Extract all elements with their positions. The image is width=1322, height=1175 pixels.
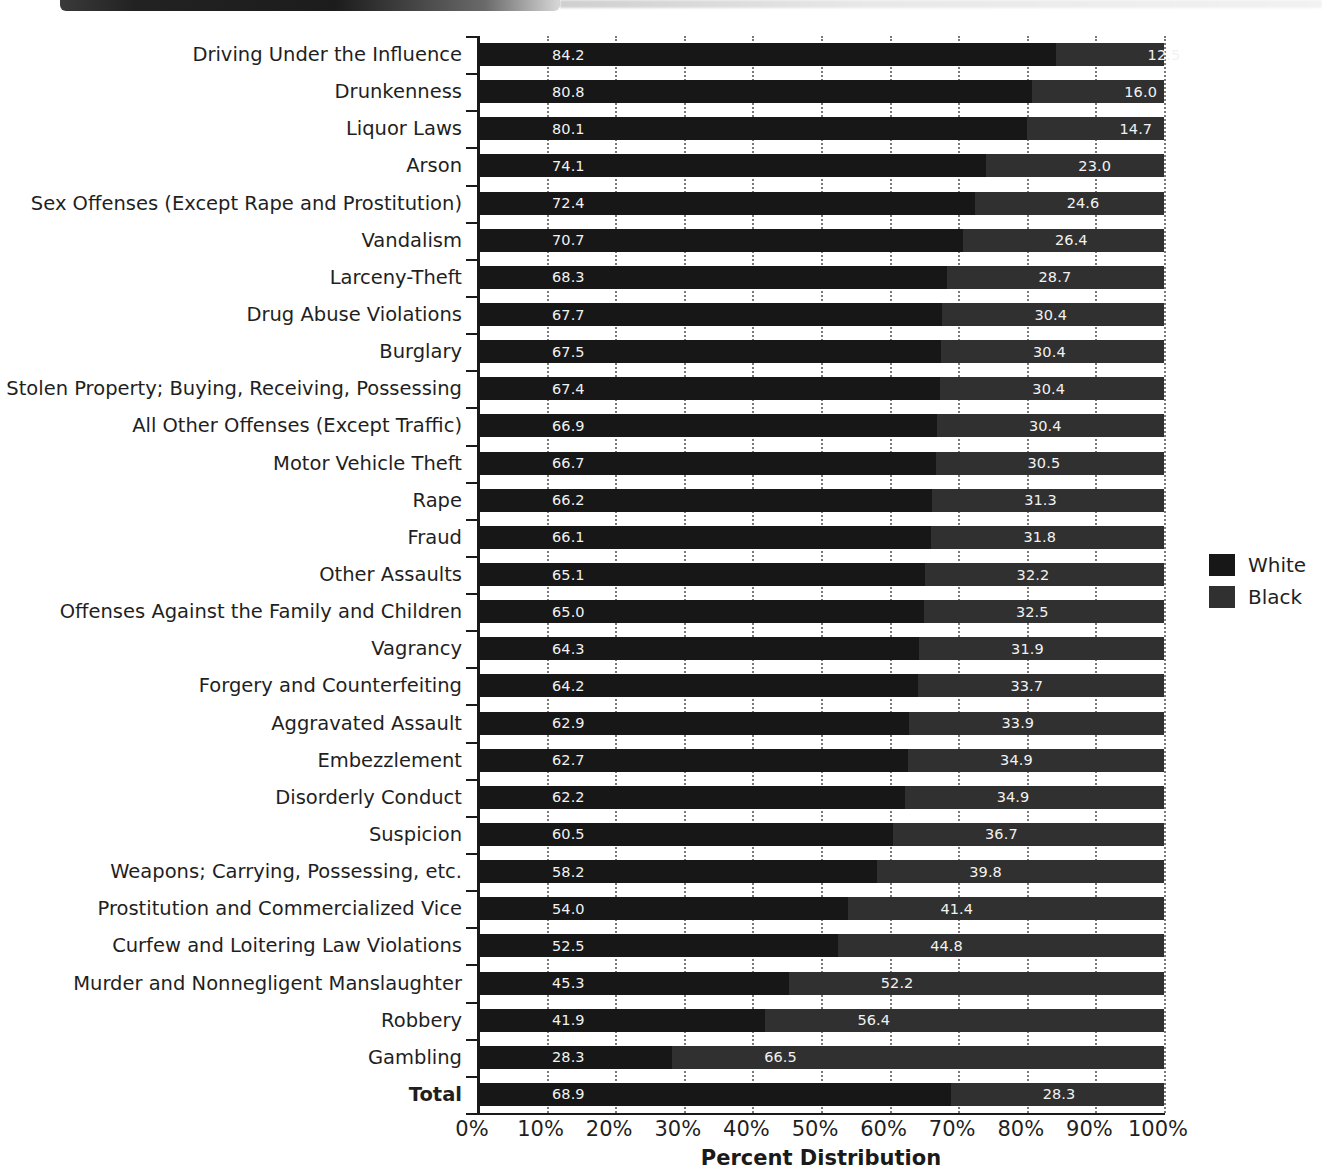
bar-segment-white [478, 674, 918, 697]
bar-value-white: 67.5 [552, 343, 585, 359]
bar-segment-black [765, 1009, 1164, 1032]
legend-item-black[interactable]: Black [1209, 585, 1319, 609]
category-axis-labels: Driving Under the InfluenceDrunkennessLi… [0, 36, 462, 1113]
legend-item-white[interactable]: White [1209, 553, 1319, 577]
bar-segment-white [478, 786, 905, 809]
bar-segment-white [478, 860, 877, 883]
bar-segment-black [838, 934, 1164, 957]
bar-value-black: 30.4 [1034, 306, 1067, 322]
bar-row: 41.956.4 [478, 1009, 1164, 1032]
category-label: Vandalism [0, 229, 462, 252]
bar-segment-white [478, 266, 947, 289]
category-label: Sex Offenses (Except Rape and Prostituti… [0, 192, 462, 215]
bar-value-black: 24.6 [1067, 195, 1100, 211]
bar-value-black: 16.0 [1124, 83, 1157, 99]
bar-row: 66.131.8 [478, 526, 1164, 549]
bar-segment-white [478, 340, 941, 363]
bar-row: 60.536.7 [478, 823, 1164, 846]
bar-row: 68.928.3 [478, 1083, 1164, 1106]
bar-row: 65.132.2 [478, 563, 1164, 586]
bar-value-black: 39.8 [969, 863, 1002, 879]
x-tick-label-60: 60% [860, 1117, 907, 1141]
category-label: Drug Abuse Violations [0, 303, 462, 326]
y-axis-tick [466, 407, 478, 409]
bar-value-white: 62.7 [552, 752, 585, 768]
category-label: Offenses Against the Family and Children [0, 600, 462, 623]
category-label: Total [0, 1083, 462, 1106]
x-tick-label-70: 70% [929, 1117, 976, 1141]
bar-segment-white [478, 712, 909, 735]
category-label: Embezzlement [0, 749, 462, 772]
bar-value-white: 66.1 [552, 529, 585, 545]
bar-row: 62.933.9 [478, 712, 1164, 735]
plot-area: 84.212.580.816.080.114.774.123.072.424.6… [478, 36, 1164, 1113]
y-axis-tick [466, 110, 478, 112]
bar-row: 74.123.0 [478, 154, 1164, 177]
bar-value-white: 67.4 [552, 380, 585, 396]
category-label: Prostitution and Commercialized Vice [0, 897, 462, 920]
bar-value-black: 52.2 [881, 975, 914, 991]
bar-value-black: 12.5 [1148, 46, 1181, 62]
category-label: Robbery [0, 1009, 462, 1032]
x-tick-label-10: 10% [517, 1117, 564, 1141]
y-axis-tick [466, 259, 478, 261]
bar-row: 58.239.8 [478, 860, 1164, 883]
category-label: Motor Vehicle Theft [0, 452, 462, 475]
category-label: Other Assaults [0, 563, 462, 586]
category-label: Fraud [0, 526, 462, 549]
bar-row: 62.234.9 [478, 786, 1164, 809]
bar-value-black: 36.7 [985, 826, 1018, 842]
bar-row: 66.730.5 [478, 452, 1164, 475]
bar-value-black: 14.7 [1119, 121, 1152, 137]
bar-value-white: 66.9 [552, 418, 585, 434]
bar-row: 62.734.9 [478, 749, 1164, 772]
bar-value-white: 41.9 [552, 1012, 585, 1028]
bar-value-white: 68.9 [552, 1086, 585, 1102]
bar-value-white: 84.2 [552, 46, 585, 62]
y-axis-tick [466, 667, 478, 669]
bar-segment-black [893, 823, 1164, 846]
bar-value-black: 32.2 [1017, 566, 1050, 582]
bar-value-white: 65.0 [552, 603, 585, 619]
bar-segment-white [478, 526, 931, 549]
bar-value-black: 28.3 [1043, 1086, 1076, 1102]
bar-value-black: 30.4 [1033, 343, 1066, 359]
bar-value-white: 72.4 [552, 195, 585, 211]
bar-value-white: 28.3 [552, 1049, 585, 1065]
y-axis-tick [466, 482, 478, 484]
bar-value-white: 66.7 [552, 455, 585, 471]
chart-legend: WhiteBlack [1209, 553, 1319, 617]
category-label: All Other Offenses (Except Traffic) [0, 414, 462, 437]
bar-segment-white [478, 303, 942, 326]
y-axis-tick [466, 742, 478, 744]
category-label: Suspicion [0, 823, 462, 846]
x-axis-spine [477, 1113, 1165, 1115]
gridline-100 [1164, 36, 1166, 1113]
y-axis-tick [466, 927, 478, 929]
x-tick-label-100: 100% [1128, 1117, 1188, 1141]
bar-value-white: 68.3 [552, 269, 585, 285]
y-axis-tick [466, 147, 478, 149]
bar-segment-white [478, 749, 908, 772]
x-tick-label-20: 20% [586, 1117, 633, 1141]
y-axis-tick [466, 630, 478, 632]
y-axis-tick [466, 964, 478, 966]
y-axis-tick [466, 1002, 478, 1004]
bar-segment-black [909, 712, 1164, 735]
category-label: Larceny-Theft [0, 266, 462, 289]
bar-value-black: 33.9 [1001, 715, 1034, 731]
bar-value-white: 74.1 [552, 158, 585, 174]
bar-value-black: 31.8 [1023, 529, 1056, 545]
bar-value-black: 30.4 [1032, 380, 1065, 396]
bar-value-black: 30.5 [1028, 455, 1061, 471]
bar-value-black: 44.8 [930, 938, 963, 954]
bar-segment-black [905, 786, 1164, 809]
bar-segment-white [478, 637, 919, 660]
bar-row: 54.041.4 [478, 897, 1164, 920]
y-axis-tick [466, 370, 478, 372]
category-label: Murder and Nonnegligent Manslaughter [0, 972, 462, 995]
bar-value-white: 62.2 [552, 789, 585, 805]
bar-segment-white [478, 229, 963, 252]
bar-value-white: 65.1 [552, 566, 585, 582]
bar-value-white: 67.7 [552, 306, 585, 322]
